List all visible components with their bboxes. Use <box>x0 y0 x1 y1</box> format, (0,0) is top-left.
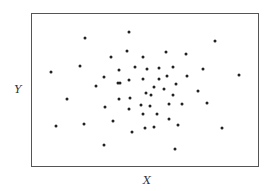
data-point <box>184 53 187 56</box>
data-point <box>145 92 148 95</box>
data-point <box>206 102 209 105</box>
data-point <box>142 77 145 80</box>
data-point <box>95 85 98 88</box>
data-point <box>103 106 106 109</box>
data-point <box>196 90 199 93</box>
data-point <box>157 77 160 80</box>
data-point <box>144 126 147 129</box>
data-point <box>131 130 134 133</box>
data-point <box>103 144 106 147</box>
data-point <box>126 49 129 52</box>
plot-area <box>31 13 259 167</box>
data-point <box>103 75 106 78</box>
data-point <box>82 122 85 125</box>
data-point <box>214 39 217 42</box>
data-point <box>165 75 168 78</box>
data-point <box>171 94 174 97</box>
data-point <box>66 98 69 101</box>
data-point <box>129 96 132 99</box>
data-point <box>181 102 184 105</box>
x-axis-label: X <box>143 175 151 186</box>
data-point <box>168 102 171 105</box>
data-point <box>127 30 130 33</box>
data-point <box>152 85 155 88</box>
data-point <box>238 73 241 76</box>
data-point <box>79 65 82 68</box>
data-point <box>83 36 86 39</box>
data-point <box>111 120 114 123</box>
data-point <box>139 104 142 107</box>
data-point <box>165 51 168 54</box>
data-point <box>168 118 171 121</box>
data-point <box>176 124 179 127</box>
data-point <box>118 69 121 72</box>
data-point <box>202 67 205 70</box>
data-point <box>134 65 137 68</box>
data-point <box>142 112 145 115</box>
data-point <box>127 79 130 82</box>
scatter-chart: Y X <box>0 0 272 191</box>
data-point <box>54 124 57 127</box>
data-point <box>155 112 158 115</box>
data-point <box>127 108 130 111</box>
data-point <box>171 65 174 68</box>
data-point <box>152 126 155 129</box>
data-point <box>175 83 178 86</box>
data-point <box>119 81 122 84</box>
data-point <box>145 67 148 70</box>
data-point <box>163 87 166 90</box>
data-point <box>118 98 121 101</box>
y-axis-label: Y <box>14 84 21 95</box>
data-point <box>186 75 189 78</box>
data-point <box>142 55 145 58</box>
data-point <box>157 67 160 70</box>
data-point <box>220 126 223 129</box>
data-point <box>49 71 52 74</box>
data-point <box>109 55 112 58</box>
data-point <box>150 94 153 97</box>
data-point <box>173 148 176 151</box>
data-point <box>149 104 152 107</box>
